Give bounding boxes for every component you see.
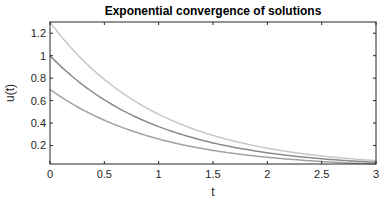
x-tick-label: 1.5 bbox=[205, 168, 220, 180]
x-tick-label: 2 bbox=[264, 168, 270, 180]
series-line-1 bbox=[50, 56, 376, 163]
series-line-2 bbox=[50, 89, 376, 164]
y-tick-label: 0.2 bbox=[31, 139, 46, 151]
x-tick-label: 0.5 bbox=[97, 168, 112, 180]
y-tick-label: 0.8 bbox=[31, 72, 46, 84]
series-line-0 bbox=[50, 22, 376, 161]
y-axis-label: u(t) bbox=[3, 84, 17, 102]
chart-title: Exponential convergence of solutions bbox=[105, 4, 322, 18]
y-tick-label: 0.6 bbox=[31, 95, 46, 107]
x-tick-label: 1 bbox=[156, 168, 162, 180]
x-tick-label: 2.5 bbox=[314, 168, 329, 180]
plot-lines bbox=[50, 22, 376, 164]
y-tick-label: 0.4 bbox=[31, 117, 46, 129]
line-chart: Exponential convergence of solutions 00.… bbox=[0, 0, 392, 206]
y-tick-label: 1 bbox=[40, 50, 46, 62]
x-tick-label: 3 bbox=[373, 168, 379, 180]
y-tick-label: 1.2 bbox=[31, 27, 46, 39]
x-tick-label: 0 bbox=[47, 168, 53, 180]
x-axis-label: t bbox=[211, 185, 215, 199]
